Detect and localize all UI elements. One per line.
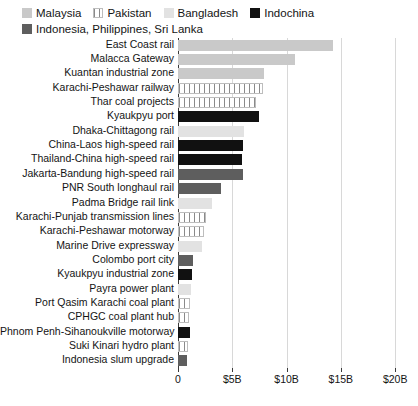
- category-label: CPHGC coal plant hub: [0, 311, 174, 322]
- category-label: Suki Kinari hydro plant: [0, 340, 174, 351]
- chart-legend: MalaysiaPakistanBangladeshIndochinaIndon…: [22, 6, 402, 38]
- category-label: China-Laos high-speed rail: [0, 139, 174, 150]
- x-axis-tick-label: $10B: [274, 373, 299, 385]
- category-label: Payra power plant: [0, 283, 174, 294]
- category-label: Jakarta-Bandung high-speed rail: [0, 168, 174, 179]
- category-label: Karachi-Peshawar railway: [0, 82, 174, 93]
- category-label: Karachi-Punjab transmission lines: [0, 211, 174, 222]
- bar-row: [178, 138, 406, 153]
- bar-row: [178, 124, 406, 139]
- bar[interactable]: [178, 97, 256, 108]
- category-label: Port Qasim Karachi coal plant: [0, 297, 174, 308]
- plot-area: [178, 38, 406, 368]
- bar-row: [178, 109, 406, 124]
- category-label: Dhaka-Chittagong rail: [0, 125, 174, 136]
- bar[interactable]: [178, 341, 188, 352]
- legend-swatch-icon: [93, 8, 103, 18]
- bar-row: [178, 224, 406, 239]
- bar[interactable]: [178, 198, 212, 209]
- bar[interactable]: [178, 111, 259, 122]
- bar[interactable]: [178, 255, 193, 266]
- bar[interactable]: [178, 126, 244, 137]
- category-label: Karachi-Peshawar motorway: [0, 225, 174, 236]
- legend-item[interactable]: Malaysia: [22, 6, 81, 20]
- bar[interactable]: [178, 154, 242, 165]
- category-label: Phnom Penh-Sihanoukville motorway: [0, 326, 174, 337]
- x-axis-tick-label: 0: [175, 373, 181, 385]
- category-label: Thar coal projects: [0, 96, 174, 107]
- bar-row: [178, 210, 406, 225]
- bar-row: [178, 353, 406, 368]
- legend-label: Indochina: [264, 6, 314, 20]
- bar[interactable]: [178, 54, 295, 65]
- bar[interactable]: [178, 212, 206, 223]
- x-axis-tick: [287, 368, 288, 372]
- bar-row: [178, 167, 406, 182]
- bar[interactable]: [178, 241, 202, 252]
- x-axis-tick: [395, 368, 396, 372]
- horizontal-bar-chart: MalaysiaPakistanBangladeshIndochinaIndon…: [0, 0, 418, 406]
- bar[interactable]: [178, 68, 264, 79]
- bar-row: [178, 296, 406, 311]
- bar-row: [178, 38, 406, 53]
- bar[interactable]: [178, 183, 221, 194]
- category-label: East Coast rail: [0, 39, 174, 50]
- bar-row: [178, 152, 406, 167]
- bar[interactable]: [178, 140, 243, 151]
- bar[interactable]: [178, 312, 189, 323]
- x-axis-tick: [341, 368, 342, 372]
- bar-row: [178, 253, 406, 268]
- legend-label: Pakistan: [107, 6, 151, 20]
- bar-row: [178, 181, 406, 196]
- bar[interactable]: [178, 226, 204, 237]
- legend-label: Bangladesh: [178, 6, 239, 20]
- bar-row: [178, 81, 406, 96]
- legend-swatch-icon: [250, 8, 260, 18]
- x-axis-tick: [232, 368, 233, 372]
- bar-row: [178, 310, 406, 325]
- category-label: Padma Bridge rail link: [0, 197, 174, 208]
- bar[interactable]: [178, 40, 333, 51]
- bar-row: [178, 52, 406, 67]
- category-label: Kyaukpyu port: [0, 110, 174, 121]
- category-label: Indonesia slum upgrade: [0, 354, 174, 365]
- bar[interactable]: [178, 269, 192, 280]
- bar[interactable]: [178, 298, 190, 309]
- bar-row: [178, 196, 406, 211]
- legend-swatch-icon: [22, 24, 32, 34]
- legend-label: Indonesia, Philippines, Sri Lanka: [36, 22, 203, 36]
- bar-row: [178, 239, 406, 254]
- category-label: Malacca Gateway: [0, 53, 174, 64]
- legend-swatch-icon: [22, 8, 32, 18]
- bar-row: [178, 66, 406, 81]
- category-label: Kuantan industrial zone: [0, 67, 174, 78]
- bar-row: [178, 339, 406, 354]
- bar[interactable]: [178, 169, 243, 180]
- legend-label: Malaysia: [36, 6, 81, 20]
- bar[interactable]: [178, 327, 190, 338]
- legend-item[interactable]: Indochina: [250, 6, 314, 20]
- bar-row: [178, 282, 406, 297]
- x-axis-tick: [178, 368, 179, 372]
- bar[interactable]: [178, 355, 187, 366]
- legend-item[interactable]: Bangladesh: [164, 6, 239, 20]
- category-label: Kyaukpyu industrial zone: [0, 268, 174, 279]
- bar[interactable]: [178, 284, 191, 295]
- bar-row: [178, 267, 406, 282]
- category-label: PNR South longhaul rail: [0, 182, 174, 193]
- bar-row: [178, 95, 406, 110]
- bar[interactable]: [178, 83, 263, 94]
- x-axis-tick-label: $15B: [329, 373, 354, 385]
- category-label: Thailand-China high-speed rail: [0, 153, 174, 164]
- bar-row: [178, 325, 406, 340]
- x-axis-tick-label: $20B: [383, 373, 408, 385]
- x-axis: 0$5B$10B$15B$20B: [0, 368, 418, 376]
- legend-item[interactable]: Indonesia, Philippines, Sri Lanka: [22, 22, 402, 36]
- category-label: Colombo port city: [0, 254, 174, 265]
- legend-swatch-icon: [164, 8, 174, 18]
- legend-item[interactable]: Pakistan: [93, 6, 151, 20]
- x-axis-tick-label: $5B: [223, 373, 242, 385]
- category-label: Marine Drive expressway: [0, 240, 174, 251]
